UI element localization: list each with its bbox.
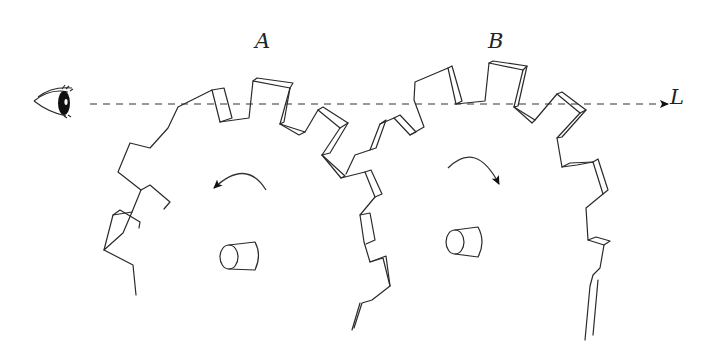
gear-b (346, 61, 610, 340)
gear-b-label: B (487, 29, 503, 53)
axle-b-icon (446, 227, 482, 257)
gear-a (104, 78, 390, 330)
rotation-arrow-cw-icon (448, 157, 499, 184)
axle-a-icon (220, 242, 259, 270)
line-l-label: L (669, 85, 684, 109)
gear-a-label: A (253, 29, 270, 53)
gears-diagram: A B L (0, 0, 709, 348)
eye-icon (34, 85, 73, 118)
rotation-arrow-ccw-icon (214, 173, 266, 190)
